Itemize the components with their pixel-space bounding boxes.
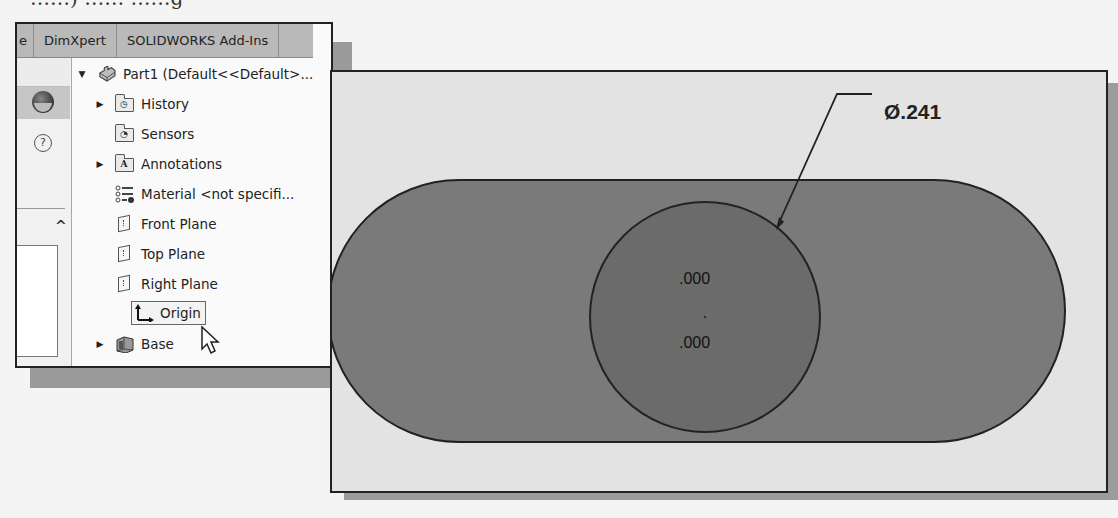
- tree-item-sensors[interactable]: ◔ Sensors: [95, 122, 194, 146]
- tree-root-part1[interactable]: ▼ Part1 (Default<<Default>...: [77, 62, 313, 86]
- tree-label: Front Plane: [141, 212, 216, 236]
- center-point[interactable]: [704, 316, 706, 318]
- tree-label: Part1 (Default<<Default>...: [123, 62, 313, 86]
- tree-item-top-plane[interactable]: Top Plane: [95, 242, 205, 266]
- caret-down-icon[interactable]: ▼: [77, 62, 87, 86]
- tab-dimxpert[interactable]: DimXpert: [34, 24, 117, 57]
- tree-item-history[interactable]: ▶ ◷ History: [95, 92, 189, 116]
- tree-item-front-plane[interactable]: Front Plane: [95, 212, 216, 236]
- chevron-up-icon[interactable]: ^: [55, 218, 67, 234]
- appearances-tab[interactable]: [17, 87, 70, 119]
- sidebar-content-box: [17, 245, 58, 357]
- tree-item-material[interactable]: Material <not specifi...: [95, 182, 294, 206]
- material-icon: [115, 185, 135, 203]
- caption-text-cut-off: ……) …… ……g: [30, 0, 183, 10]
- sensors-folder-icon: ◔: [115, 125, 135, 143]
- plane-icon: [115, 215, 135, 233]
- diameter-dimension[interactable]: Ø.241: [884, 100, 941, 124]
- tree-label: History: [141, 92, 189, 116]
- annotations-folder-icon: A: [115, 155, 135, 173]
- help-icon[interactable]: ?: [34, 134, 52, 152]
- tree-item-base[interactable]: ▶ Base: [95, 332, 174, 356]
- tree-label: Base: [141, 332, 174, 356]
- graphics-area[interactable]: Ø.241 .000 .000: [330, 70, 1108, 493]
- tab-truncated[interactable]: e: [17, 24, 34, 57]
- caret-right-icon[interactable]: ▶: [95, 332, 105, 356]
- tree-label: Annotations: [141, 152, 222, 176]
- tab-solidworks-add-ins[interactable]: SOLIDWORKS Add-Ins: [117, 24, 279, 57]
- history-folder-icon: ◷: [115, 95, 135, 113]
- tree-label: Top Plane: [141, 242, 205, 266]
- plane-icon: [115, 275, 135, 293]
- mouse-pointer-icon: [200, 325, 222, 355]
- tree-item-annotations[interactable]: ▶ A Annotations: [95, 152, 222, 176]
- sidebar-top-strip: [17, 58, 70, 87]
- sidebar-divider: [17, 208, 65, 209]
- tree-item-right-plane[interactable]: Right Plane: [95, 272, 218, 296]
- tree-label: Sensors: [141, 122, 194, 146]
- plane-icon: [115, 245, 135, 263]
- task-pane-sidebar: ? ^: [17, 58, 72, 366]
- tree-label: Material <not specifi...: [141, 182, 294, 206]
- tree-label: Right Plane: [141, 272, 218, 296]
- caret-right-icon[interactable]: ▶: [95, 92, 105, 116]
- caret-right-icon[interactable]: ▶: [95, 152, 105, 176]
- command-manager-tabs: e DimXpert SOLIDWORKS Add-Ins: [17, 24, 313, 58]
- sketch-canvas[interactable]: [332, 72, 1106, 491]
- tree-label: Origin: [160, 301, 201, 325]
- part-icon: [97, 65, 117, 83]
- origin-icon: [134, 304, 154, 322]
- appearances-icon: [32, 91, 54, 113]
- center-x-coordinate: .000: [679, 270, 710, 288]
- tree-item-origin[interactable]: Origin: [131, 301, 206, 325]
- center-y-coordinate: .000: [679, 334, 710, 352]
- feature-manager-panel: e DimXpert SOLIDWORKS Add-Ins ? ^ ▼ Part…: [15, 22, 333, 368]
- base-extrude-icon: [115, 335, 135, 353]
